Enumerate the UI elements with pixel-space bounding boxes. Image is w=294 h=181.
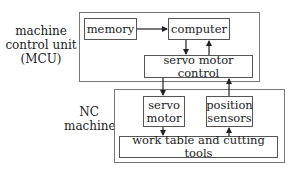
connection-arrows: [0, 0, 294, 181]
